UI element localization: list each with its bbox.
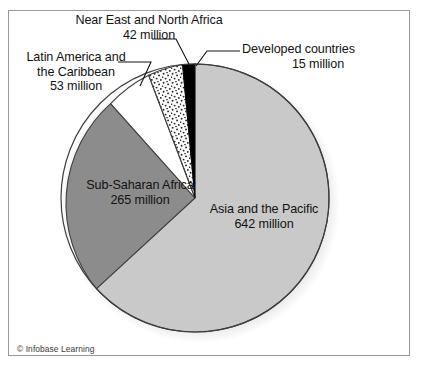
slice-label-line-1: Asia and the Pacific xyxy=(196,202,332,217)
slice-label-line-1: Latin America and xyxy=(6,50,146,65)
copyright-credit: © Infobase Learning xyxy=(17,344,94,354)
slice-label-line-1: Developed countries xyxy=(242,42,414,57)
figure-canvas: Near East and North Africa 42 million La… xyxy=(0,0,422,371)
slice-label-line-3: 53 million xyxy=(6,79,146,94)
slice-label-line-2: 642 million xyxy=(196,217,332,232)
slice-label-line-2: 42 million xyxy=(61,28,237,43)
leader-line-near-east xyxy=(152,39,191,68)
slice-label-line-2: 15 million xyxy=(242,57,394,72)
slice-label-line-1: Sub-Saharan Africa xyxy=(60,178,220,193)
slice-label-latin-america-and-the-caribbean: Latin America and the Caribbean 53 milli… xyxy=(6,50,146,94)
slice-label-near-east-and-north-africa: Near East and North Africa 42 million xyxy=(61,13,237,42)
slice-label-line-1: Near East and North Africa xyxy=(61,13,237,28)
slice-label-line-2: the Caribbean xyxy=(6,65,146,80)
slice-label-asia-and-the-pacific: Asia and the Pacific 642 million xyxy=(196,202,332,231)
slice-label-developed-countries: Developed countries 15 million xyxy=(242,42,414,71)
